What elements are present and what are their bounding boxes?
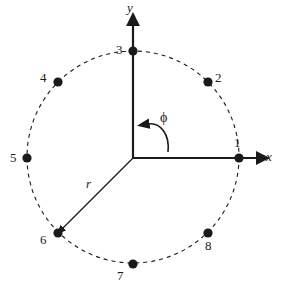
point-label-6: 6: [40, 233, 47, 246]
point-dot: [53, 228, 62, 237]
point-dot: [203, 77, 212, 86]
point-label-7: 7: [117, 269, 124, 282]
point-dot: [128, 259, 137, 268]
point-label-8: 8: [205, 239, 212, 252]
y-axis-label: y: [127, 1, 133, 14]
polar-coordinate-diagram: x y r ϕ 1 2 3 4 5 6 7 8: [0, 0, 282, 291]
point-label-4: 4: [40, 71, 47, 84]
phi-angle-label: ϕ: [160, 111, 167, 125]
point-dot: [22, 153, 31, 162]
phi-angle-arc: [148, 124, 168, 152]
radius-vector: [62, 158, 133, 229]
point-dot: [203, 228, 212, 237]
radius-label: r: [86, 177, 91, 190]
point-label-1: 1: [234, 136, 241, 149]
point-dot: [128, 46, 137, 55]
point-label-3: 3: [116, 43, 123, 56]
point-label-2: 2: [215, 71, 222, 84]
point-dot: [234, 153, 243, 162]
point-label-5: 5: [10, 151, 17, 164]
point-dot: [53, 77, 62, 86]
x-axis-label: x: [266, 150, 272, 163]
